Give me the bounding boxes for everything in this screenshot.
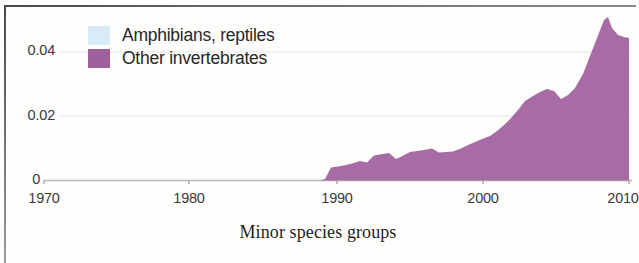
x-tick-label-2010: 2010 <box>607 190 638 206</box>
x-tick-label-1990: 1990 <box>321 190 352 206</box>
x-tick-label-1980: 1980 <box>173 190 204 206</box>
legend-swatch-other-invertebrates <box>88 49 110 68</box>
legend-label-amphibians-reptiles: Amphibians, reptiles <box>122 25 275 46</box>
legend-item-other-invertebrates: Other invertebrates <box>88 47 275 70</box>
figure-caption: Minor species groups <box>0 222 636 243</box>
legend-item-amphibians-reptiles: Amphibians, reptiles <box>88 24 275 47</box>
x-tick-label-1970: 1970 <box>28 190 59 206</box>
legend-label-other-invertebrates: Other invertebrates <box>122 48 267 69</box>
y-tick-label-004: 0.04 <box>0 42 55 58</box>
x-tick-label-2000: 2000 <box>467 190 498 206</box>
y-tick-label-0: 0 <box>0 171 40 187</box>
legend-swatch-amphibians-reptiles <box>88 26 110 45</box>
chart-legend: Amphibians, reptiles Other invertebrates <box>88 24 275 70</box>
y-tick-label-002: 0.02 <box>0 107 55 123</box>
